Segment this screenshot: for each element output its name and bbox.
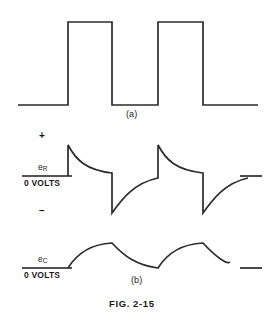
er-symbol-subscript: R <box>43 165 48 172</box>
er-zero-volts-label: 0 VOLTS <box>24 179 60 188</box>
ec-symbol-label: eC <box>38 255 48 264</box>
panel-b-ec-waveform-group <box>68 243 262 268</box>
panel-a-label: (a) <box>126 110 137 119</box>
panel-b-label: (b) <box>131 276 142 285</box>
panel-b-er-waveform-group <box>68 145 262 213</box>
negative-polarity-label: − <box>39 206 45 216</box>
capacitor-voltage-trace <box>68 243 230 268</box>
ec-zero-volts-label: 0 VOLTS <box>24 271 60 280</box>
er-symbol-label: eR <box>38 163 48 172</box>
ec-symbol-subscript: C <box>43 257 48 264</box>
figure-container: (a) + − eR 0 VOLTS eC 0 VOLTS (b) FIG. 2… <box>0 0 278 319</box>
resistor-voltage-trace <box>68 145 248 213</box>
positive-polarity-label: + <box>39 131 45 141</box>
input-square-wave-trace <box>18 22 258 105</box>
panel-a-square-wave-group <box>18 22 258 105</box>
figure-caption: FIG. 2-15 <box>109 299 155 309</box>
